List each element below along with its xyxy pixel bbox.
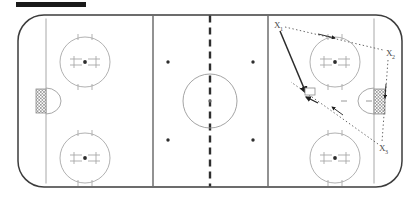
neutral-dot-upper-left	[166, 60, 169, 63]
center-faceoff-dot	[208, 99, 211, 102]
hockey-rink-diagram: X 1 X 2 X 3	[0, 0, 420, 219]
player-subscript-x2: 2	[392, 54, 395, 60]
neutral-dot-lower-left	[166, 138, 169, 141]
left-goal-net	[36, 89, 46, 113]
player-subscript-x3: 3	[385, 149, 388, 155]
player-subscript-x1: 1	[280, 26, 283, 32]
neutral-dot-lower-right	[251, 138, 254, 141]
puck-marker	[305, 88, 315, 95]
rink-svg: X 1 X 2 X 3	[0, 0, 420, 219]
top-black-bar	[16, 2, 86, 7]
neutral-dot-upper-right	[251, 60, 254, 63]
right-goal-net	[374, 89, 385, 114]
